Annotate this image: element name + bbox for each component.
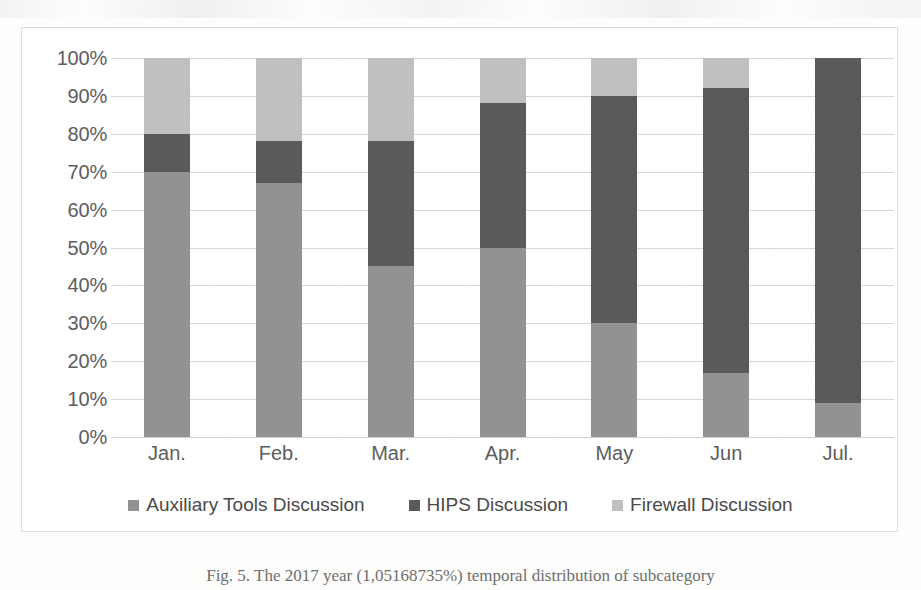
x-axis-tick-label: Apr.: [485, 442, 521, 465]
bar-segment: [368, 58, 414, 141]
bar-segment: [368, 141, 414, 266]
stacked-bar: [256, 58, 302, 437]
bar-segment: [256, 183, 302, 437]
legend-item[interactable]: Firewall Discussion: [612, 494, 793, 516]
scan-smudge-band: [0, 0, 921, 18]
legend-item[interactable]: HIPS Discussion: [409, 494, 569, 516]
y-axis: 0%10%20%30%40%50%60%70%80%90%100%: [43, 58, 107, 437]
x-axis-tick-label: Jan.: [148, 442, 186, 465]
bar-segment: [815, 58, 861, 403]
y-axis-tick-label: 90%: [68, 84, 107, 107]
stacked-bar: [480, 58, 526, 437]
y-axis-tick-label: 60%: [68, 198, 107, 221]
x-axis-tick-label: Mar.: [371, 442, 410, 465]
bar-segment: [591, 96, 637, 323]
chart-frame: 0%10%20%30%40%50%60%70%80%90%100% Jan.Fe…: [21, 27, 898, 532]
bar-segment: [144, 134, 190, 172]
bar-group: [815, 58, 861, 437]
legend-square-marker-icon: [409, 500, 420, 511]
legend-item[interactable]: Auxiliary Tools Discussion: [128, 494, 364, 516]
stacked-bar: [703, 58, 749, 437]
bar-segment: [703, 88, 749, 372]
y-axis-tick-label: 10%: [68, 388, 107, 411]
bar-group: [591, 58, 637, 437]
x-axis-tick-label: May: [595, 442, 633, 465]
y-axis-tick-label: 80%: [68, 122, 107, 145]
bar-segment: [256, 141, 302, 183]
stacked-bar: [368, 58, 414, 437]
bar-segment: [815, 403, 861, 437]
x-axis-tick-label: Jun: [710, 442, 742, 465]
bar-group: [368, 58, 414, 437]
chart-legend: Auxiliary Tools DiscussionHIPS Discussio…: [22, 494, 899, 516]
y-axis-tick-label: 40%: [68, 274, 107, 297]
plot-area: [111, 58, 894, 437]
legend-square-marker-icon: [612, 500, 623, 511]
figure-caption: Fig. 5. The 2017 year (1,05168735%) temp…: [0, 566, 921, 590]
bar-group: [256, 58, 302, 437]
stacked-bar: [591, 58, 637, 437]
y-axis-tick-label: 20%: [68, 350, 107, 373]
bar-group: [480, 58, 526, 437]
y-axis-tick-label: 100%: [57, 47, 107, 70]
y-axis-tick-label: 0%: [78, 426, 107, 449]
y-axis-tick-label: 30%: [68, 312, 107, 335]
legend-label: Auxiliary Tools Discussion: [146, 494, 364, 516]
legend-square-marker-icon: [128, 500, 139, 511]
legend-label: HIPS Discussion: [427, 494, 569, 516]
bar-segment: [703, 58, 749, 88]
x-axis: Jan.Feb.Mar.Apr.MayJunJul.: [111, 442, 894, 478]
gridline: [111, 437, 894, 438]
stacked-bar: [815, 58, 861, 437]
bar-segment: [144, 58, 190, 134]
bars-layer: [111, 58, 894, 437]
bar-segment: [591, 323, 637, 437]
y-axis-tick-label: 70%: [68, 160, 107, 183]
bar-segment: [591, 58, 637, 96]
bar-segment: [480, 58, 526, 103]
x-axis-tick-label: Jul.: [823, 442, 854, 465]
bar-segment: [144, 172, 190, 437]
y-axis-tick-label: 50%: [68, 236, 107, 259]
bar-segment: [480, 103, 526, 247]
legend-label: Firewall Discussion: [630, 494, 793, 516]
bar-segment: [368, 266, 414, 437]
bar-group: [144, 58, 190, 437]
bar-segment: [256, 58, 302, 141]
bar-segment: [703, 373, 749, 437]
bar-group: [703, 58, 749, 437]
x-axis-tick-label: Feb.: [259, 442, 299, 465]
bar-segment: [480, 248, 526, 438]
stacked-bar: [144, 58, 190, 437]
